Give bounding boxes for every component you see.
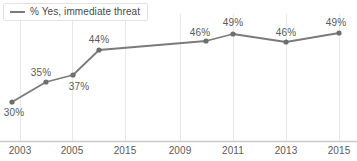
point-value-label-2: 37% <box>69 82 89 92</box>
point-value-label-7: 49% <box>326 18 346 28</box>
x-tick-label-2: 2015 <box>114 146 137 156</box>
data-point-4[interactable] <box>203 38 208 43</box>
point-value-label-3: 44% <box>89 35 109 45</box>
line-chart: % Yes, immediate threat 2003200520152009… <box>0 0 357 161</box>
point-value-label-5: 49% <box>223 18 243 28</box>
legend-label-yes-immediate-threat: % Yes, immediate threat <box>30 7 140 17</box>
data-point-5[interactable] <box>230 31 235 36</box>
x-tick-label-1: 2005 <box>61 146 84 156</box>
x-tick-label-0: 2003 <box>9 146 32 156</box>
data-point-1[interactable] <box>43 79 48 84</box>
data-point-0[interactable] <box>9 99 14 104</box>
point-value-label-1: 35% <box>31 68 51 78</box>
x-tick-label-6: 2015 <box>328 146 351 156</box>
x-tick-label-4: 2011 <box>222 146 244 156</box>
point-value-label-4: 46% <box>190 28 210 38</box>
point-value-label-0: 30% <box>4 108 24 118</box>
data-point-3[interactable] <box>96 47 101 52</box>
x-tick-label-3: 2009 <box>169 146 192 156</box>
chart-legend: % Yes, immediate threat <box>3 3 148 21</box>
point-value-label-6: 46% <box>276 28 296 38</box>
legend-line-swatch-icon <box>10 11 25 13</box>
data-point-6[interactable] <box>283 39 288 44</box>
data-point-2[interactable] <box>70 72 75 77</box>
series-line-yes-immediate-threat <box>12 33 339 102</box>
data-point-7[interactable] <box>336 30 341 35</box>
chart-plot-area <box>0 0 357 161</box>
x-tick-label-5: 2013 <box>275 146 298 156</box>
